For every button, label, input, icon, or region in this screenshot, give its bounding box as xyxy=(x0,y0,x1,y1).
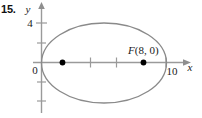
coordinate-plot: y x 4 0 10 F(8, 0) xyxy=(0,0,202,118)
ellipse-figure: 15. xyxy=(0,0,202,118)
focus-label: F(8, 0) xyxy=(127,44,159,57)
axis-group xyxy=(33,2,191,113)
focus-point-left xyxy=(60,60,66,66)
y-tick-label-4: 4 xyxy=(27,17,33,29)
origin-label: 0 xyxy=(32,64,38,76)
focus-label-arguments: (8, 0) xyxy=(135,44,159,57)
focus-point-right xyxy=(141,60,147,66)
x-axis-label: x xyxy=(187,61,193,73)
y-axis-label: y xyxy=(25,3,31,15)
y-axis-arrowhead xyxy=(38,2,45,9)
x-tick-label-10: 10 xyxy=(167,65,179,77)
